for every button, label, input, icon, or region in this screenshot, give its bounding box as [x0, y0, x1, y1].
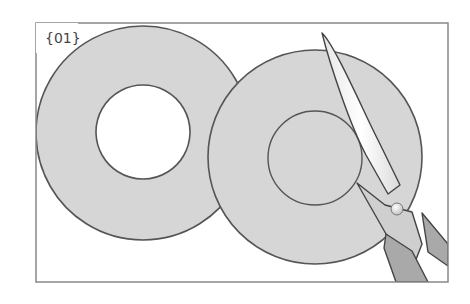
illustration: {01} [0, 0, 470, 304]
